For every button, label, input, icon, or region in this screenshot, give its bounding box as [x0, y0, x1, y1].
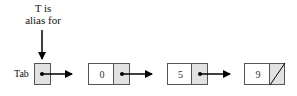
arrows-overlay — [0, 0, 297, 96]
null-slash-icon — [270, 63, 285, 85]
